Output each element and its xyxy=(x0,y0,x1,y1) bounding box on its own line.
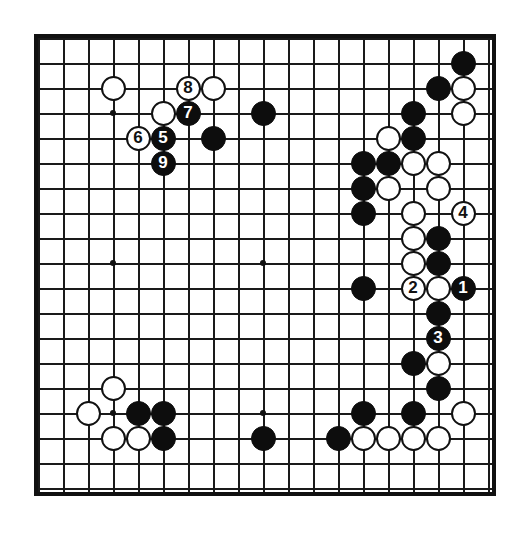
stone-black[interactable] xyxy=(426,76,451,101)
grid-line-horizontal xyxy=(38,188,492,190)
stone-black-move-1[interactable]: 1 xyxy=(451,276,476,301)
grid-line-vertical xyxy=(288,38,290,492)
grid-line-horizontal xyxy=(38,338,492,340)
move-number-label: 4 xyxy=(458,204,467,221)
star-point xyxy=(260,260,266,266)
stone-black[interactable] xyxy=(351,276,376,301)
stone-white[interactable] xyxy=(401,201,426,226)
grid-line-vertical xyxy=(63,38,65,492)
stone-white[interactable] xyxy=(451,76,476,101)
go-board[interactable]: 876594213 xyxy=(0,0,524,536)
stone-black-move-5[interactable]: 5 xyxy=(151,126,176,151)
stone-black[interactable] xyxy=(351,201,376,226)
stone-black[interactable] xyxy=(401,101,426,126)
stone-white[interactable] xyxy=(401,151,426,176)
stone-white[interactable] xyxy=(151,101,176,126)
star-point xyxy=(260,410,266,416)
stone-white[interactable] xyxy=(426,426,451,451)
stone-white[interactable] xyxy=(201,76,226,101)
diagram-page: 876594213 xyxy=(0,0,524,536)
stone-white[interactable] xyxy=(401,426,426,451)
stone-white-move-4[interactable]: 4 xyxy=(451,201,476,226)
stone-white[interactable] xyxy=(426,151,451,176)
grid-line-horizontal xyxy=(38,63,492,65)
grid-line-horizontal xyxy=(38,488,492,490)
move-number-label: 9 xyxy=(158,154,167,171)
stone-black[interactable] xyxy=(401,401,426,426)
stone-white[interactable] xyxy=(376,176,401,201)
grid-line-vertical xyxy=(313,38,315,492)
stone-white[interactable] xyxy=(376,426,401,451)
stone-white-move-8[interactable]: 8 xyxy=(176,76,201,101)
stone-white[interactable] xyxy=(76,401,101,426)
stone-black[interactable] xyxy=(451,51,476,76)
stone-white[interactable] xyxy=(426,351,451,376)
stone-white[interactable] xyxy=(451,401,476,426)
move-number-label: 6 xyxy=(133,129,142,146)
star-point xyxy=(110,410,116,416)
move-number-label: 5 xyxy=(158,129,167,146)
stone-black[interactable] xyxy=(126,401,151,426)
stone-white[interactable] xyxy=(376,126,401,151)
grid-line-vertical xyxy=(338,38,340,492)
grid-line-vertical xyxy=(38,38,40,492)
stone-black[interactable] xyxy=(251,426,276,451)
grid-line-horizontal xyxy=(38,313,492,315)
stone-white[interactable] xyxy=(101,76,126,101)
move-number-label: 1 xyxy=(458,279,467,296)
stone-white[interactable] xyxy=(451,101,476,126)
stone-white[interactable] xyxy=(401,251,426,276)
stone-white[interactable] xyxy=(351,426,376,451)
stone-black[interactable] xyxy=(251,101,276,126)
stone-white[interactable] xyxy=(426,276,451,301)
stone-black[interactable] xyxy=(326,426,351,451)
grid-line-vertical xyxy=(488,38,490,492)
grid-line-horizontal xyxy=(38,463,492,465)
stone-black[interactable] xyxy=(426,251,451,276)
stone-black[interactable] xyxy=(401,351,426,376)
stone-white[interactable] xyxy=(101,376,126,401)
stone-black[interactable] xyxy=(151,401,176,426)
stone-black[interactable] xyxy=(351,176,376,201)
stone-black[interactable] xyxy=(351,151,376,176)
move-number-label: 3 xyxy=(433,329,442,346)
stone-black[interactable] xyxy=(426,226,451,251)
stone-black-move-7[interactable]: 7 xyxy=(176,101,201,126)
move-number-label: 8 xyxy=(183,79,192,96)
star-point xyxy=(110,110,116,116)
stone-white[interactable] xyxy=(126,426,151,451)
stone-black[interactable] xyxy=(376,151,401,176)
stone-black-move-9[interactable]: 9 xyxy=(151,151,176,176)
move-number-label: 7 xyxy=(183,104,192,121)
move-number-label: 2 xyxy=(408,279,417,296)
stone-white-move-2[interactable]: 2 xyxy=(401,276,426,301)
stone-black[interactable] xyxy=(401,126,426,151)
grid-line-vertical xyxy=(388,38,390,492)
star-point xyxy=(110,260,116,266)
stone-black[interactable] xyxy=(351,401,376,426)
grid-line-vertical xyxy=(238,38,240,492)
grid-line-horizontal xyxy=(38,38,492,40)
stone-black-move-3[interactable]: 3 xyxy=(426,326,451,351)
stone-white[interactable] xyxy=(101,426,126,451)
stone-white-move-6[interactable]: 6 xyxy=(126,126,151,151)
stone-black[interactable] xyxy=(426,301,451,326)
stone-white[interactable] xyxy=(401,226,426,251)
grid-line-vertical xyxy=(213,38,215,492)
stone-black[interactable] xyxy=(151,426,176,451)
goban-grid[interactable]: 876594213 xyxy=(38,38,492,492)
stone-black[interactable] xyxy=(201,126,226,151)
stone-white[interactable] xyxy=(426,176,451,201)
stone-black[interactable] xyxy=(426,376,451,401)
